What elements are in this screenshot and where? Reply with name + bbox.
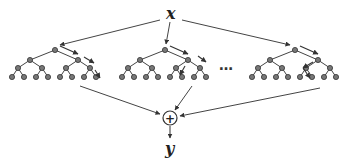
arrow-tree-3-to-sum	[180, 88, 320, 116]
tree-3-nodes	[249, 47, 338, 79]
arrow-tree-1-to-sum	[80, 86, 160, 114]
sum-aggregator-node: +	[163, 111, 177, 126]
output-arrows	[80, 86, 320, 116]
arrow-x-to-tree-3	[182, 20, 290, 45]
arrow-x-to-tree-2	[166, 22, 170, 44]
random-forest-diagram: x	[0, 0, 354, 163]
input-label-x: x	[165, 4, 176, 23]
arrow-tree-2-to-sum	[175, 86, 192, 110]
tree-1-nodes	[9, 47, 98, 79]
plus-icon: +	[165, 112, 175, 126]
decision-tree-3	[249, 46, 338, 80]
output-label-y: y	[164, 139, 176, 158]
decision-tree-1	[9, 46, 100, 80]
input-arrows	[60, 20, 290, 45]
arrow-x-to-tree-1	[60, 20, 160, 45]
ellipsis-more-trees: …	[219, 57, 233, 73]
decision-tree-2	[119, 46, 208, 80]
tree-2-nodes	[119, 47, 208, 79]
